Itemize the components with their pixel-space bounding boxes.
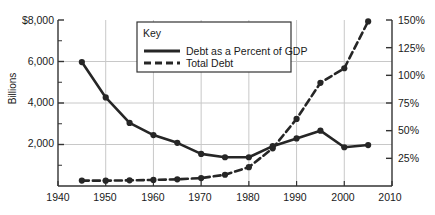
series-debt-percent-gdp xyxy=(79,59,371,160)
plot-canvas xyxy=(0,0,435,215)
chart-figure: Billions $8,000 6,000 4,000 2,000 150% 1… xyxy=(0,0,435,215)
legend-label-total-debt: Total Debt xyxy=(186,57,233,69)
legend-label-debt-percent-gdp: Debt as a Percent of GDP xyxy=(186,45,307,57)
legend-title: Key xyxy=(143,27,161,39)
